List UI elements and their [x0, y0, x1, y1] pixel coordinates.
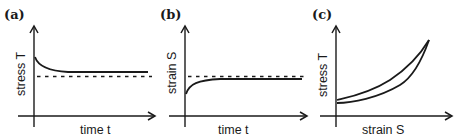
panel-label-b: (b)	[160, 7, 181, 22]
y-label-c: stress T	[316, 52, 330, 97]
creep-curve	[186, 79, 302, 94]
relaxation-curve	[35, 57, 148, 72]
panel-a: (a) stress T time t	[4, 7, 155, 137]
figure: (a) stress T time t (b) strain S time t …	[0, 0, 458, 140]
panel-label-c: (c)	[312, 7, 332, 22]
x-label-b: time t	[218, 123, 249, 137]
panel-label-a: (a)	[4, 7, 25, 22]
panel-b: (b) strain S time t	[160, 7, 307, 137]
y-label-a: stress T	[14, 51, 28, 96]
x-label-a: time t	[80, 123, 111, 137]
unloading-curve	[337, 40, 429, 103]
y-label-b: strain S	[165, 52, 179, 94]
x-label-c: strain S	[362, 123, 404, 137]
panel-c: (c) stress T strain S	[312, 7, 452, 137]
